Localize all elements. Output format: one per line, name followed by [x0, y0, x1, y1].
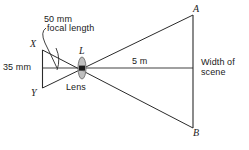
- point-label-l: L: [79, 45, 85, 56]
- point-label-a: A: [193, 3, 199, 14]
- focal-length-leader-line: [43, 28, 57, 68]
- point-label-y: Y: [31, 87, 37, 98]
- point-label-b: B: [193, 127, 199, 138]
- lens-caption-label: Lens: [66, 82, 86, 92]
- point-label-x: X: [30, 38, 36, 49]
- scene-width-label: Width ofscene: [201, 57, 235, 77]
- lens-center-marker: [79, 66, 85, 71]
- lens-ray-diagram: 50 mm focal length 35 mm 5 m Width ofsce…: [0, 0, 249, 150]
- object-distance-label: 5 m: [132, 56, 147, 66]
- scene-width-line-2: scene: [201, 67, 226, 77]
- film-height-label: 35 mm: [3, 62, 31, 72]
- focal-length-caption-label: focal length: [47, 23, 94, 33]
- scene-width-line-1: Width of: [201, 57, 235, 67]
